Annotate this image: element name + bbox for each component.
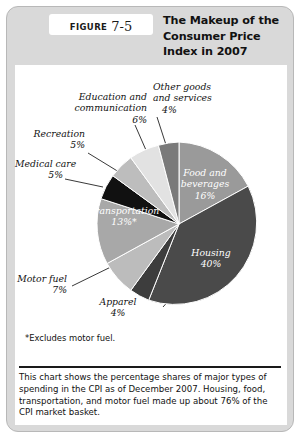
label-transportation-value: 13%* (77, 216, 171, 227)
label-housing: Housing 40% (175, 247, 247, 270)
label-housing-value: 40% (175, 258, 247, 269)
caption-text: This chart shows the percentage shares o… (19, 372, 283, 419)
label-medical-care: Medical care 5% (15, 158, 63, 181)
footnote-text: *Excludes motor fuel. (25, 333, 115, 343)
label-food-line1: Food and (165, 167, 245, 178)
label-food-value: 16% (165, 190, 245, 201)
chart-panel: Education and communication 6% Recreatio… (15, 65, 287, 361)
label-other-goods-and-services: Other goods and services 4% (153, 81, 263, 115)
label-motor-fuel-value: 7% (15, 284, 67, 295)
figure-box: FIGURE7-5 The Makeup of the Consumer Pri… (6, 6, 294, 432)
label-transportation-line1: Transportation (77, 205, 171, 216)
figure-number-text: FIGURE7-5 (49, 14, 153, 35)
label-medical-line1: Medical care (15, 158, 63, 169)
label-education-line2: communication (15, 102, 147, 113)
label-medical-value: 5% (15, 169, 63, 180)
pie-chart: Education and communication 6% Recreatio… (15, 65, 287, 361)
label-education-value: 6% (15, 114, 147, 125)
label-transportation: Transportation 13%* (77, 205, 171, 228)
label-other-goods-line2: and services (153, 92, 263, 103)
label-education-line1: Education and (15, 91, 147, 102)
label-food-line2: beverages (165, 178, 245, 189)
figure-number-tab: FIGURE7-5 (49, 14, 153, 35)
label-education-and-communication: Education and communication 6% (15, 91, 147, 125)
caption-divider (19, 366, 281, 368)
leader-line-medical (65, 179, 103, 187)
label-recreation: Recreation 5% (15, 128, 85, 151)
label-other-goods-value: 4% (162, 104, 263, 115)
label-motor-fuel-line1: Motor fuel (15, 273, 67, 284)
caption-panel: This chart shows the percentage shares o… (15, 361, 287, 425)
figure-header: FIGURE7-5 The Makeup of the Consumer Pri… (7, 7, 294, 73)
label-recreation-line1: Recreation (15, 128, 85, 139)
label-housing-line1: Housing (175, 247, 247, 258)
figure-label-word: FIGURE (70, 22, 108, 32)
label-motor-fuel: Motor fuel 7% (15, 273, 67, 296)
label-apparel-line1: Apparel (81, 296, 155, 307)
label-apparel: Apparel 4% (81, 296, 155, 319)
figure-number: 7-5 (111, 19, 132, 34)
label-apparel-value: 4% (81, 307, 155, 318)
label-recreation-value: 5% (15, 139, 85, 150)
figure-title: The Makeup of the Consumer Price Index i… (163, 13, 289, 60)
label-food-and-beverages: Food and beverages 16% (165, 167, 245, 201)
label-other-goods-line1: Other goods (153, 81, 263, 92)
leader-line-recreation (88, 153, 119, 172)
